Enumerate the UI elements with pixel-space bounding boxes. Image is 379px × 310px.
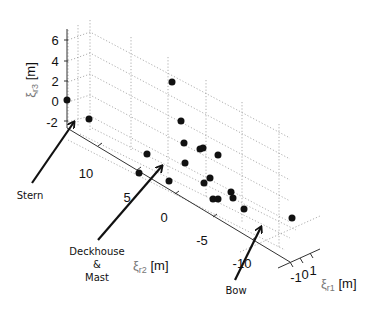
data-point (228, 189, 235, 196)
y-axis-label: ξr2 [m] (133, 258, 169, 275)
deckhouse-arrow-icon (98, 166, 162, 240)
data-point (178, 118, 185, 125)
svg-text:ξr3 [m]: ξr3 [m] (23, 62, 40, 98)
data-point (230, 195, 237, 202)
z-tick-neg2: -2 (46, 115, 58, 130)
data-point (169, 79, 176, 86)
data-point (200, 145, 207, 152)
bow-arrow-icon (235, 227, 261, 280)
bow-label: Bow (225, 285, 246, 296)
data-point (182, 160, 189, 167)
data-point (241, 206, 248, 213)
stern-label: Stern (17, 190, 44, 201)
x-tick-neg1: -1 (290, 270, 302, 285)
x-tick-1: 1 (309, 263, 316, 278)
y-tick-10: 10 (79, 166, 93, 181)
x-axis: -1 0 1 ξr1 [m] (278, 249, 357, 293)
z-axis-label: ξr3 [m] (23, 62, 40, 98)
y-tick-0: 0 (160, 210, 167, 225)
data-point (181, 140, 188, 147)
data-point (144, 151, 151, 158)
x-axis-label: ξr1 [m] (321, 276, 357, 293)
grid-vertical-lines (68, 20, 279, 248)
data-point (166, 178, 173, 185)
deckhouse-amp: & (93, 259, 101, 270)
z-tick-0: 0 (51, 94, 58, 109)
data-point (207, 175, 214, 182)
scatter-3d-plot: 6 4 2 0 -2 ξr3 [m] 10 5 0 -5 -10 ξr2 [m]… (0, 0, 379, 310)
data-points (64, 79, 296, 222)
data-point (86, 116, 93, 123)
y-tick-neg5: -5 (196, 233, 208, 248)
data-point (201, 180, 208, 187)
mast-label: Mast (85, 272, 109, 283)
deckhouse-label: Deckhouse (69, 246, 124, 257)
data-point (136, 170, 143, 177)
data-point (289, 215, 296, 222)
x-tick-0: 0 (301, 267, 308, 282)
stern-arrow-icon (32, 122, 74, 183)
grid-diagonal-lines (68, 32, 320, 252)
z-tick-2: 2 (51, 74, 58, 89)
data-point (215, 152, 222, 159)
data-point (215, 196, 222, 203)
z-axis: 6 4 2 0 -2 ξr3 [m] (23, 29, 68, 130)
data-point (64, 97, 71, 104)
z-tick-4: 4 (51, 54, 58, 69)
z-tick-6: 6 (51, 33, 58, 48)
